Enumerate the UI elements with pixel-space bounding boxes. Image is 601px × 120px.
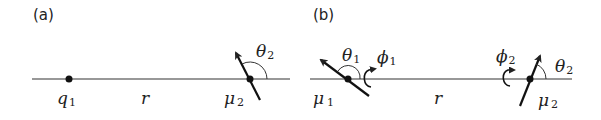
theta2-label: θ2 [256,41,274,62]
distance-r-label-b: r [434,88,443,108]
panel-b: (b) μ1 θ1 ϕ1 r μ2 ϕ2 θ2 [310,6,573,111]
dipole-mu2-dot [247,76,254,83]
dipole-mu2-b-label: μ2 [538,90,558,111]
panel-a-label: (a) [33,6,54,24]
charge-q1-label: q1 [57,88,76,109]
theta2-b-arc-icon [536,64,546,79]
dipole-mu2-b-dot [527,76,534,83]
dipole-mu2-label: μ2 [224,88,244,109]
panel-b-label: (b) [313,6,334,24]
phi2-rotation-icon [503,70,513,86]
phi1-rotation-icon [364,69,374,87]
diagram-canvas: (a) q1 r μ2 θ2 (b) μ1 θ1 ϕ1 [0,0,601,120]
phi1-label: ϕ1 [377,47,397,68]
theta2-b-label: θ2 [555,56,573,77]
distance-r-label: r [141,88,150,108]
phi2-label: ϕ2 [496,46,516,67]
dipole-mu1-label: μ1 [313,88,334,109]
panel-a: (a) q1 r μ2 θ2 [32,6,290,109]
dipole-mu1-dot [345,76,352,83]
charge-q1-dot [66,76,73,83]
theta1-label: θ1 [342,45,360,66]
